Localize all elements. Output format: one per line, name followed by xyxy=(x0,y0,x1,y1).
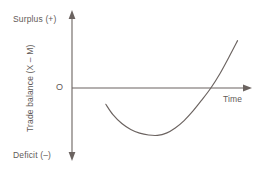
y-axis-up-arrow-icon xyxy=(69,10,76,19)
axis-label-surplus: Surplus (+) xyxy=(13,15,56,24)
origin-label: O xyxy=(56,83,63,92)
y-axis-title: Trade balance (X – M) xyxy=(26,36,35,140)
j-curve-figure: Surplus (+) Deficit (–) Trade balance (X… xyxy=(0,0,261,171)
x-axis-title: Time xyxy=(223,95,242,104)
axis-label-deficit: Deficit (–) xyxy=(13,151,51,160)
x-axis-right-arrow-icon xyxy=(243,85,252,92)
y-axis-down-arrow-icon xyxy=(69,152,76,161)
j-curve-plot xyxy=(0,0,261,171)
